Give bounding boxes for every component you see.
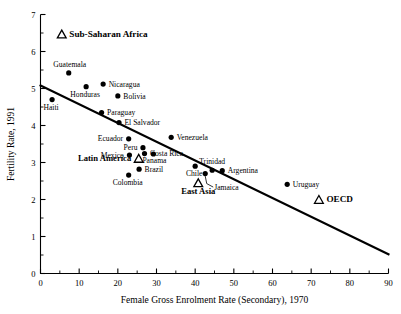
data-point-label: Haiti xyxy=(44,103,59,112)
data-point-dot xyxy=(285,182,290,187)
data-point-label: Jamaica xyxy=(214,183,239,192)
data-point-dot xyxy=(66,70,71,75)
axis-lines xyxy=(41,15,389,274)
y-tick-label: 4 xyxy=(31,121,36,131)
data-point-label: Guatemala xyxy=(53,60,87,69)
x-tick-label: 80 xyxy=(346,278,355,288)
data-point-dot xyxy=(116,120,121,125)
data-point-label: Peru xyxy=(124,143,138,152)
y-tick-label: 7 xyxy=(31,10,35,20)
x-tick-label: 30 xyxy=(152,278,161,288)
data-point-label: Argentina xyxy=(228,166,259,175)
data-point-label: Bolivia xyxy=(123,92,146,101)
data-point-label: Brazil xyxy=(145,165,164,174)
x-axis-title: Female Gross Enrolment Rate (Secondary),… xyxy=(121,295,309,306)
y-tick-label: 3 xyxy=(31,158,35,168)
data-point-dot xyxy=(99,110,104,115)
x-tick-label: 20 xyxy=(114,278,123,288)
data-point-dot xyxy=(84,84,89,89)
data-point-label: Chile xyxy=(186,169,203,178)
y-tick-label: 1 xyxy=(31,232,35,242)
y-tick-label: 2 xyxy=(31,195,35,205)
data-point-label: Nicaragua xyxy=(109,80,141,89)
data-point-triangle xyxy=(315,195,324,203)
data-point-label: Paraguay xyxy=(107,108,135,117)
y-tick-label: 6 xyxy=(31,47,35,57)
y-tick-label: 5 xyxy=(31,84,35,94)
x-tick-label: 90 xyxy=(384,278,393,288)
data-point-dot xyxy=(220,168,225,173)
data-point-dot xyxy=(169,135,174,140)
data-point-dot xyxy=(115,93,120,98)
data-point-label: East Asia xyxy=(181,186,216,196)
data-point-label: Trinidad xyxy=(199,157,225,166)
data-point-dot xyxy=(126,172,131,177)
data-point-dot xyxy=(140,145,145,150)
data-point-dot xyxy=(210,168,215,173)
x-tick-label: 60 xyxy=(268,278,277,288)
x-tick-label: 70 xyxy=(307,278,316,288)
data-point-label: Colombia xyxy=(113,178,144,187)
data-point-dot xyxy=(203,171,208,176)
x-tick-label: 10 xyxy=(75,278,84,288)
data-point-dot xyxy=(50,97,55,102)
data-point-label: El Salvador xyxy=(124,118,160,127)
data-point-label: Ecuador xyxy=(98,134,124,143)
data-point-label: Honduras xyxy=(70,90,100,99)
data-point-dot xyxy=(126,136,131,141)
fertility-enrolment-scatter-chart: 010203040506070809001234567Female Gross … xyxy=(0,0,401,314)
data-point-dot xyxy=(101,81,106,86)
data-point-label: Panama xyxy=(142,156,167,165)
x-tick-label: 50 xyxy=(230,278,239,288)
data-point-label: Uruguay xyxy=(293,180,320,189)
data-point-label: Venezuela xyxy=(177,133,209,142)
x-tick-label: 40 xyxy=(191,278,200,288)
data-point-dot xyxy=(137,167,142,172)
data-point-triangle xyxy=(57,30,66,38)
x-tick-label: 0 xyxy=(38,278,42,288)
data-point-label: Sub-Saharan Africa xyxy=(69,29,148,39)
y-tick-label: 0 xyxy=(31,269,35,279)
y-axis-title: Fertility Rate, 1991 xyxy=(6,107,16,181)
data-point-dot xyxy=(193,164,198,169)
data-point-label: Latin America xyxy=(78,153,132,163)
data-point-label: OECD xyxy=(326,194,353,204)
chart-plot-area: 010203040506070809001234567Female Gross … xyxy=(0,0,401,314)
